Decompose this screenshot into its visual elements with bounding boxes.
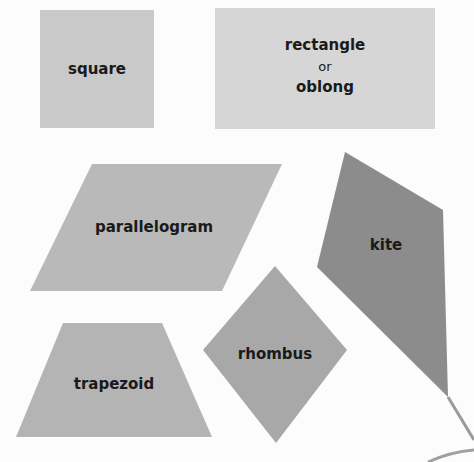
shapes-canvas: square rectangle or oblong parallelogram… bbox=[0, 0, 474, 462]
rhombus-label: rhombus bbox=[238, 345, 312, 363]
square-label: square bbox=[68, 60, 126, 78]
rectangle-or-label: or bbox=[318, 59, 332, 74]
trapezoid-shape: trapezoid bbox=[16, 323, 212, 437]
trapezoid-label: trapezoid bbox=[74, 375, 155, 393]
kite-label: kite bbox=[370, 236, 402, 254]
parallelogram-label: parallelogram bbox=[95, 218, 213, 236]
oblong-label: oblong bbox=[296, 78, 354, 96]
rectangle-label: rectangle bbox=[285, 36, 366, 54]
page-edge-lines bbox=[428, 397, 474, 462]
square-shape: square bbox=[40, 10, 154, 128]
rectangle-shape: rectangle or oblong bbox=[215, 8, 435, 129]
rhombus-shape: rhombus bbox=[203, 266, 347, 443]
quadrilaterals-diagram: square rectangle or oblong parallelogram… bbox=[0, 0, 474, 462]
parallelogram-shape: parallelogram bbox=[30, 164, 282, 291]
